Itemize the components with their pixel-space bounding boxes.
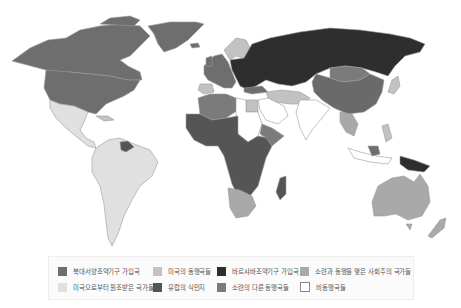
- region-uk: [206, 56, 212, 66]
- legend-item-us-aided: 미국으로부터 원조받은 국가들: [58, 281, 154, 293]
- region-spain: [198, 84, 214, 94]
- region-new-guinea: [400, 156, 430, 172]
- legend-label: 미국으로부터 원조받은 국가들: [73, 283, 154, 292]
- region-new-zealand: [428, 218, 446, 238]
- region-canada: [12, 24, 150, 80]
- region-arctic-islands: [100, 16, 140, 26]
- legend-label: 소련과 동맹을 맺은 사회주의 국가들: [315, 267, 411, 276]
- legend-swatch-nato: [58, 267, 67, 276]
- legend-swatch-warsaw-pact: [217, 267, 226, 276]
- legend-item-us-allies: 미국의 동맹국들: [153, 265, 211, 277]
- legend-swatch-other-soviet-allies: [217, 283, 226, 292]
- region-india: [296, 100, 330, 140]
- legend-item-non-aligned: 비동맹국들: [300, 281, 346, 293]
- region-egypt: [246, 100, 258, 112]
- legend-label: 바르샤바조약기구 가입국: [232, 267, 299, 276]
- region-madagascar: [276, 176, 286, 200]
- legend-item-nato: 북대서양조약기구 가입국: [58, 265, 140, 277]
- region-japan: [388, 76, 400, 94]
- region-tasmania: [406, 224, 412, 230]
- legend-swatch-non-aligned: [300, 282, 310, 292]
- region-iceland: [190, 43, 200, 48]
- legend-swatch-us-allies: [153, 267, 162, 276]
- region-southeast-asia: [340, 112, 358, 136]
- legend: 북대서양조약기구 가입국 미국의 동맹국들 바르샤바조약기구 가입국 소련과 동…: [48, 256, 414, 300]
- legend-swatch-soviet-socialist: [300, 267, 309, 276]
- legend-label: 미국의 동맹국들: [168, 267, 211, 276]
- region-australia: [372, 174, 430, 220]
- legend-item-other-soviet-allies: 소련의 다른 동맹국들: [217, 281, 289, 293]
- legend-swatch-european-colonies: [153, 283, 162, 292]
- legend-swatch-us-aided: [58, 283, 67, 292]
- legend-label: 유럽의 식민지: [168, 283, 205, 292]
- legend-label: 비동맹국들: [316, 283, 346, 292]
- region-philippines: [382, 124, 392, 142]
- legend-item-european-colonies: 유럽의 식민지: [153, 281, 205, 293]
- legend-label: 북대서양조약기구 가입국: [73, 267, 140, 276]
- world-map: [0, 0, 461, 255]
- legend-item-warsaw-pact: 바르샤바조약기구 가입국: [217, 265, 299, 277]
- region-caribbean: [96, 116, 114, 121]
- legend-item-soviet-socialist: 소련과 동맹을 맺은 사회주의 국가들: [300, 265, 411, 277]
- region-south-america: [92, 138, 158, 246]
- legend-label: 소련의 다른 동맹국들: [232, 283, 289, 292]
